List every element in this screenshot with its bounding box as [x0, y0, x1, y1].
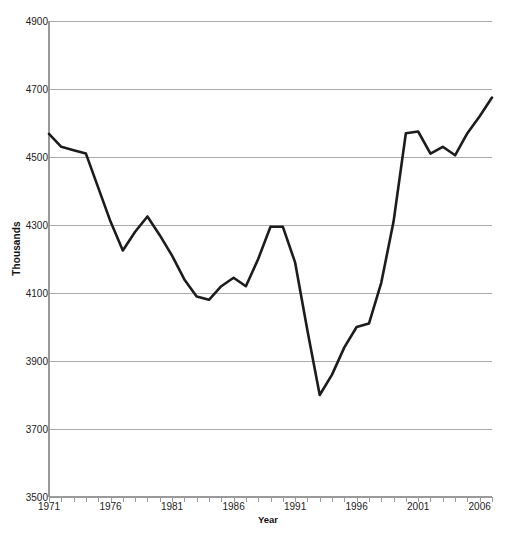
x-axis-title: Year	[49, 514, 487, 525]
x-axis-ticks	[50, 497, 493, 502]
data-series-line	[49, 98, 492, 396]
line-chart: Thousands 350037003900410043004500470049…	[0, 0, 505, 538]
plot-area	[0, 0, 505, 538]
